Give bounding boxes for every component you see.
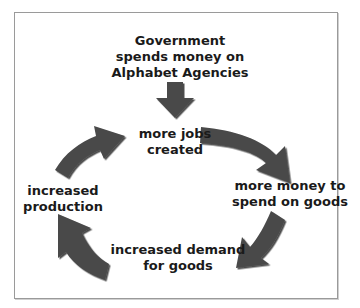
node-demand-label: increased demand for goods — [108, 242, 248, 274]
node-production-label: increased production — [18, 183, 108, 215]
arrow-down-icon — [156, 82, 194, 118]
node-money-label: more money to spend on goods — [225, 178, 355, 210]
jobs-line-1: more jobs — [125, 126, 225, 142]
production-line-1: increased — [18, 183, 108, 199]
money-line-2: spend on goods — [225, 194, 355, 210]
arrow-curve-demand-to-production-icon — [58, 214, 109, 280]
production-line-2: production — [18, 199, 108, 215]
jobs-line-2: created — [125, 142, 225, 158]
money-line-1: more money to — [225, 178, 355, 194]
demand-line-1: increased demand — [108, 242, 248, 258]
start-line-1: Government — [110, 33, 250, 49]
start-line-3: Alphabet Agencies — [110, 65, 250, 81]
start-node-label: Government spends money on Alphabet Agen… — [110, 33, 250, 81]
demand-line-2: for goods — [108, 258, 248, 274]
node-jobs-label: more jobs created — [125, 126, 225, 158]
start-line-2: spends money on — [110, 49, 250, 65]
arrow-curve-production-to-jobs-icon — [55, 126, 125, 178]
